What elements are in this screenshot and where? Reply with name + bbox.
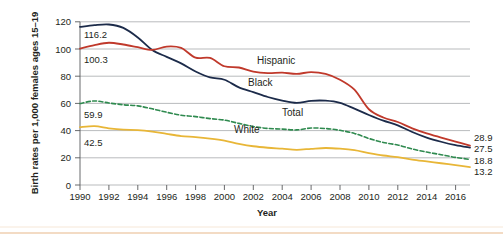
gridlines (80, 22, 470, 185)
x-tick-label: 1992 (98, 191, 119, 202)
start-label-white: 42.5 (84, 137, 103, 148)
y-axis-title: Birth rates per 1,000 females ages 15–19 (29, 12, 40, 195)
x-tick-label: 2010 (358, 191, 379, 202)
chart-figure: 120 100 80 60 40 20 0 1990 (0, 0, 503, 241)
y-tick-labels: 120 100 80 60 40 20 0 (55, 16, 71, 190)
series-label-white: White (234, 124, 260, 135)
end-label-total: 18.8 (474, 155, 493, 166)
x-tick-label: 2006 (301, 191, 322, 202)
x-tick-label: 2004 (272, 191, 293, 202)
end-label-hispanic: 28.9 (474, 132, 493, 143)
x-tick-label: 1998 (185, 191, 206, 202)
end-label-black: 27.5 (474, 143, 493, 154)
end-label-white: 13.2 (474, 166, 493, 177)
data-series-layer (80, 24, 470, 167)
x-tick-label: 2008 (329, 191, 350, 202)
series-label-black: Black (248, 77, 273, 88)
x-axis-title: Year (257, 207, 277, 218)
y-tick-label: 0 (66, 180, 71, 191)
teen-birth-rate-line-chart: 120 100 80 60 40 20 0 1990 (0, 0, 503, 241)
series-inline-labels: Hispanic Black Total White (234, 55, 303, 135)
x-tick-label: 2016 (445, 191, 466, 202)
x-axis (80, 185, 456, 190)
end-value-labels: 28.9 27.5 18.8 13.2 (474, 132, 493, 178)
x-tick-label: 2000 (214, 191, 235, 202)
start-label-total: 59.9 (84, 109, 103, 120)
x-tick-label: 1996 (156, 191, 177, 202)
x-tick-label: 1990 (69, 191, 90, 202)
y-tick-label: 120 (55, 16, 71, 27)
y-tick-label: 40 (60, 125, 71, 136)
y-tick-label: 60 (60, 98, 71, 109)
x-tick-label: 1994 (127, 191, 148, 202)
x-tick-label: 2012 (387, 191, 408, 202)
start-label-hispanic: 100.3 (84, 54, 108, 65)
y-tick-label: 100 (55, 44, 71, 55)
y-tick-label: 80 (60, 71, 71, 82)
x-tick-labels: 1990 1992 1994 1996 1998 2000 2002 2004 … (69, 191, 466, 202)
x-tick-label: 2002 (243, 191, 264, 202)
y-tick-label: 20 (60, 152, 71, 163)
start-label-black: 116.2 (84, 29, 107, 40)
x-tick-label: 2014 (416, 191, 437, 202)
series-label-total: Total (282, 107, 303, 118)
series-label-hispanic: Hispanic (257, 55, 295, 66)
